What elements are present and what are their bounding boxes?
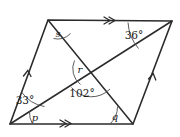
angle-label-36: 36° bbox=[125, 29, 144, 41]
diagonal-bottomleft-topright bbox=[10, 21, 172, 124]
angle-label-33: 33° bbox=[16, 94, 35, 106]
geometry-diagram-container: s 36° r 102° 33° p q bbox=[0, 0, 180, 137]
angle-label-p: p bbox=[32, 112, 39, 123]
angle-label-q: q bbox=[112, 111, 118, 122]
parallelogram-diagram: s 36° r 102° 33° p q bbox=[0, 0, 180, 137]
angle-label-102: 102° bbox=[69, 87, 94, 99]
angle-label-s: s bbox=[55, 28, 60, 39]
angle-label-r: r bbox=[78, 64, 84, 75]
